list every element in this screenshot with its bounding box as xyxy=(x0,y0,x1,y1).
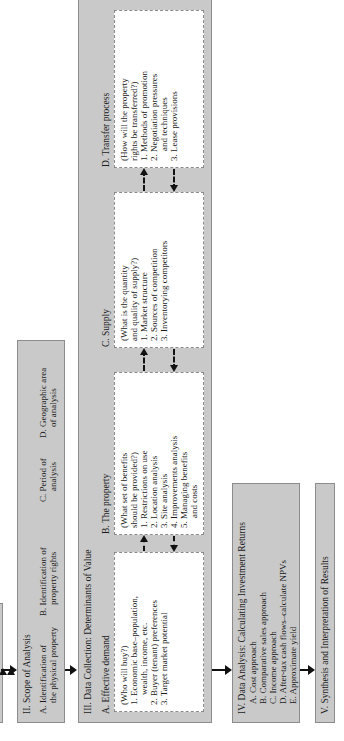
step-5-synthesis-box: V. Synthesis and Interpretation of Resul… xyxy=(315,483,335,723)
box-a-heading: A. Effective demand xyxy=(101,635,112,714)
box-a-effective-demand: (Who will buy?) 1. Economic base–populat… xyxy=(114,552,204,712)
scope-item-a: A. Identification of the physical proper… xyxy=(38,616,58,714)
arrow-c-to-b xyxy=(173,349,175,370)
step-5-title: V. Synthesis and Interpretation of Resul… xyxy=(320,492,331,714)
arrow-ii-to-iii-head xyxy=(70,665,77,675)
box-d-transfer-process: (How will the property rights be transfe… xyxy=(114,10,204,168)
box-c-supply: (What is the quantity and quality of sup… xyxy=(114,192,204,348)
scope-item-d: D. Geographic area of analysis xyxy=(38,368,58,438)
box-c-heading: C. Supply xyxy=(101,309,112,347)
scope-item-c: C. Period of analysis xyxy=(38,438,58,502)
arrow-c-to-d xyxy=(143,170,145,191)
arrow-i-to-ii-head xyxy=(10,665,17,675)
box-d-heading: D. Transfer process xyxy=(101,93,112,167)
flow-diagram: II. Scope of Analysis A. Identification … xyxy=(0,0,344,741)
arrow-iv-to-v-head xyxy=(308,665,315,675)
arrow-b-to-c xyxy=(143,350,145,371)
step-1-box xyxy=(0,603,3,723)
arrow-iii-to-iv-head xyxy=(225,665,232,675)
scope-item-b: B. Identification of property rights xyxy=(38,502,58,616)
box-b-the-property: (What set of benefits should be provided… xyxy=(114,372,204,535)
step-2-title: II. Scope of Analysis xyxy=(22,634,33,714)
arrow-a-to-b xyxy=(143,537,145,551)
step-4-data-analysis-box: IV. Data Analysis: Calculating Investmen… xyxy=(232,483,300,723)
arrow-b-to-a xyxy=(173,536,175,550)
arrow-d-to-c xyxy=(173,169,175,190)
box-a-question: (Who will buy?) xyxy=(119,559,129,705)
step-3-title: III. Data Collection: Determinants of Va… xyxy=(83,550,94,714)
step-2-scope-box: II. Scope of Analysis A. Identification … xyxy=(17,340,65,723)
box-b-heading: B. The property xyxy=(101,474,112,534)
step-4-title: IV. Data Analysis: Calculating Investmen… xyxy=(237,492,248,714)
arrow-iii-to-iv xyxy=(212,669,226,671)
